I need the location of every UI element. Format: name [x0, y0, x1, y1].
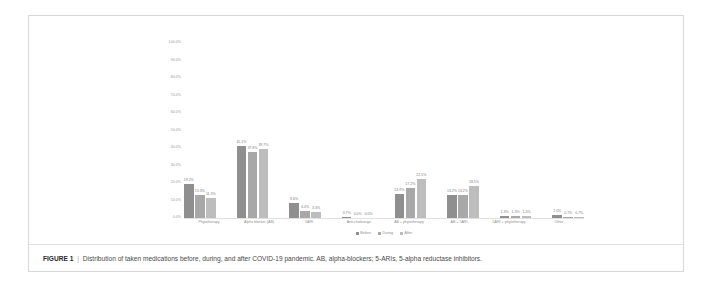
y-axis-tick-label: 80.0%	[147, 76, 181, 80]
legend-swatch-icon	[378, 232, 381, 235]
bar-value-label: 13.3%	[195, 190, 205, 194]
bar-value-label: 17.2%	[405, 183, 415, 187]
figure-caption: FIGURE 1 | Distribution of taken medicat…	[43, 255, 673, 264]
bar[interactable]	[259, 149, 269, 218]
bar-value-label: 0.7%	[575, 212, 583, 216]
bar-value-label: 22.5%	[416, 174, 426, 178]
bar-value-label: 2.0%	[553, 210, 561, 214]
x-axis-category-label: AB + 5ARI	[434, 221, 484, 231]
bar-value-label: 4.0%	[301, 206, 309, 210]
legend-item[interactable]: During	[378, 232, 393, 236]
bar-value-label: 8.6%	[290, 198, 298, 202]
bar-value-label: 39.7%	[258, 144, 268, 148]
bar-value-label: 0.0%	[354, 213, 362, 217]
bar-value-label: 37.8%	[247, 147, 257, 151]
x-axis-category-label: Phytotherapy	[184, 221, 234, 231]
x-axis-line	[184, 218, 584, 219]
bar-value-label: 0.0%	[365, 213, 373, 217]
bar-group: 19.2%13.3%11.3%	[184, 43, 216, 218]
figure-container: 0.0%10.0%20.0%30.0%40.0%50.0%60.0%70.0%8…	[28, 15, 684, 272]
bar-slot: 41.1%	[237, 43, 247, 218]
x-axis-category-label: 5ARI	[284, 221, 334, 231]
bar-slot: 1.3%	[511, 43, 521, 218]
y-axis-tick-label: 40.0%	[147, 146, 181, 150]
legend-item[interactable]: Before	[356, 232, 371, 236]
bar-slot: 3.3%	[311, 43, 321, 218]
bar-slot: 4.0%	[300, 43, 310, 218]
bar-group: 1.3%1.3%1.3%	[500, 43, 532, 218]
bar[interactable]	[447, 195, 457, 218]
y-axis-tick-label: 100.0%	[147, 41, 181, 45]
y-axis-tick-label: 0.0%	[147, 216, 181, 220]
bar[interactable]	[248, 152, 258, 218]
legend-swatch-icon	[356, 232, 359, 235]
bar-value-label: 1.3%	[512, 211, 520, 215]
caption-divider	[29, 244, 683, 245]
bar-slot: 19.2%	[184, 43, 194, 218]
bar-group: 13.2%13.2%18.5%	[447, 43, 479, 218]
bar-value-label: 3.3%	[312, 207, 320, 211]
bar-value-label: 13.2%	[458, 190, 468, 194]
bar-group: 8.6%4.0%3.3%	[289, 43, 321, 218]
bar-value-label: 0.7%	[343, 212, 351, 216]
y-axis-tick-label: 30.0%	[147, 164, 181, 168]
bar[interactable]	[417, 179, 427, 218]
bar-value-label: 1.3%	[523, 211, 531, 215]
chart-legend: BeforeDuringAfter	[184, 232, 584, 236]
bar-value-label: 18.5%	[469, 181, 479, 185]
y-axis-tick-label: 10.0%	[147, 199, 181, 203]
bar-value-label: 13.2%	[447, 190, 457, 194]
caption-separator: |	[75, 255, 81, 262]
legend-label: During	[382, 232, 393, 236]
y-axis-tick-label: 60.0%	[147, 111, 181, 115]
bar[interactable]	[289, 203, 299, 218]
bar-slot: 1.3%	[500, 43, 510, 218]
bar[interactable]	[206, 198, 216, 218]
bar[interactable]	[469, 186, 479, 218]
bar-value-label: 11.3%	[206, 193, 216, 197]
x-axis-category-label: Alpha blocker (AB)	[234, 221, 284, 231]
bar-slot: 13.2%	[447, 43, 457, 218]
bar[interactable]	[300, 211, 310, 218]
bar[interactable]	[184, 184, 194, 218]
bar-value-label: 13.9%	[394, 189, 404, 193]
bar-groups: 19.2%13.3%11.3%41.1%37.8%39.7%8.6%4.0%3.…	[184, 43, 584, 218]
bar-slot: 0.0%	[353, 43, 363, 218]
legend-swatch-icon	[400, 232, 403, 235]
bar-slot: 0.7%	[563, 43, 573, 218]
legend-item[interactable]: After	[400, 232, 412, 236]
legend-label: Before	[360, 232, 371, 236]
bar-slot: 39.7%	[259, 43, 269, 218]
y-axis-tick-label: 50.0%	[147, 129, 181, 133]
caption-figure-number: FIGURE 1	[43, 255, 73, 262]
bar-slot: 0.0%	[364, 43, 374, 218]
bar-value-label: 0.7%	[564, 212, 572, 216]
bar[interactable]	[237, 146, 247, 218]
bar-slot: 2.0%	[552, 43, 562, 218]
bar-value-label: 41.1%	[236, 141, 246, 145]
bar-group: 41.1%37.8%39.7%	[237, 43, 269, 218]
bar-value-label: 19.2%	[184, 179, 194, 183]
y-axis-tick-label: 90.0%	[147, 59, 181, 63]
bar-slot: 13.2%	[458, 43, 468, 218]
bar-slot: 37.8%	[248, 43, 258, 218]
bar[interactable]	[195, 195, 205, 218]
bar-slot: 11.3%	[206, 43, 216, 218]
bar[interactable]	[395, 194, 405, 218]
bar-slot: 18.5%	[469, 43, 479, 218]
bar-slot: 17.2%	[406, 43, 416, 218]
x-axis-category-label: Anti-cholinergic	[334, 221, 384, 231]
bar-slot: 22.5%	[417, 43, 427, 218]
x-axis: PhytotherapyAlpha blocker (AB)5ARIAnti-c…	[184, 221, 584, 231]
bar-slot: 1.3%	[522, 43, 532, 218]
bar-slot: 8.6%	[289, 43, 299, 218]
y-axis: 0.0%10.0%20.0%30.0%40.0%50.0%60.0%70.0%8…	[147, 43, 181, 218]
bar-slot: 13.3%	[195, 43, 205, 218]
bar[interactable]	[406, 188, 416, 218]
bar-group: 2.0%0.7%0.7%	[552, 43, 584, 218]
bar-value-label: 1.3%	[501, 211, 509, 215]
bar-slot: 0.7%	[342, 43, 352, 218]
bar-chart: 0.0%10.0%20.0%30.0%40.0%50.0%60.0%70.0%8…	[29, 16, 685, 228]
caption-text: Distribution of taken medications before…	[83, 255, 482, 262]
bar[interactable]	[458, 195, 468, 218]
